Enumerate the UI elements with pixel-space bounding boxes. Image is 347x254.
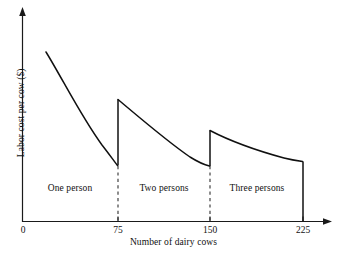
y-axis-arrow-icon [19, 7, 26, 16]
x-tick-label-75: 75 [98, 226, 138, 236]
curve-segment-one-person [46, 52, 118, 166]
x-tick-label-0: 0 [3, 226, 43, 236]
curve-segment-three-persons [210, 131, 303, 162]
x-tick-label-150: 150 [190, 226, 230, 236]
x-axis-arrow-icon [323, 218, 332, 224]
curve-segment-two-persons [118, 100, 210, 167]
x-axis-label: Number of dairy cows [0, 238, 347, 248]
x-tick-label-225: 225 [283, 226, 323, 236]
region-label-three-persons: Three persons [202, 184, 312, 194]
chart-figure: Labor cost per cow ($) Number of dairy c… [0, 0, 347, 254]
chart-plot-area [0, 0, 347, 254]
y-axis-label: Labor cost per cow ($) [17, 43, 27, 183]
